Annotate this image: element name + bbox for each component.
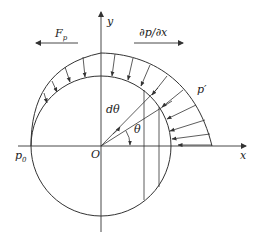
force-pressure-label: Fp — [55, 28, 67, 42]
pressure-arrows — [44, 54, 212, 145]
pressure-prime-label: p′ — [197, 84, 207, 95]
angle-rays — [101, 88, 172, 146]
pressure-envelope — [31, 53, 212, 146]
diagram-graphic — [0, 0, 258, 238]
theta-arc — [126, 131, 130, 145]
force-pressure-subscript: p — [63, 34, 67, 42]
dtheta-arc — [113, 127, 120, 134]
theta-label: θ — [134, 124, 141, 135]
origin-label: O — [91, 149, 100, 160]
y-axis-label: y — [107, 16, 113, 27]
pressure-diagram: y x O Fp ∂p/∂x p′ p0 dθ θ — [0, 0, 258, 238]
pressure-gradient-label: ∂p/∂x — [139, 27, 167, 38]
pressure-zero-subscript: 0 — [22, 156, 26, 164]
x-axis-label: x — [240, 150, 246, 161]
pressure-zero-symbol: p — [15, 149, 22, 162]
pressure-zero-label: p0 — [15, 150, 27, 164]
dtheta-label: dθ — [106, 104, 120, 115]
force-pressure-symbol: F — [55, 27, 63, 40]
projection-lines — [144, 90, 159, 200]
